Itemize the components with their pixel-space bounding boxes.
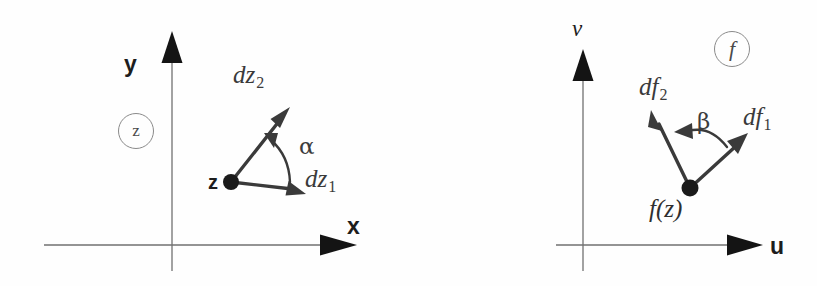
z-plane-vectors <box>223 107 306 196</box>
df2-vector-arrowhead <box>648 110 662 131</box>
df1-label: df1 <box>743 104 771 133</box>
f-plane-tag-label: f <box>729 36 735 62</box>
dz1-label-base: dz <box>305 165 327 192</box>
df1-vector-shaft <box>690 146 736 188</box>
beta-angle-arrowhead <box>674 123 693 139</box>
conformal-mapping-figure: y x z z dz2 dz1 α v u f f(z) df2 df1 β <box>0 0 817 286</box>
dz1-vector-shaft <box>231 182 292 189</box>
f-plane-tag: f <box>714 31 750 67</box>
u-axis-arrowhead <box>727 235 763 256</box>
df1-label-subscript: 1 <box>762 116 771 133</box>
df2-label: df2 <box>639 74 667 103</box>
dz1-label: dz1 <box>305 166 336 195</box>
y-axis-label: y <box>124 53 137 76</box>
v-axis-label: v <box>572 17 582 40</box>
dz2-label: dz2 <box>233 62 264 91</box>
beta-angle-label: β <box>697 110 710 133</box>
z-plane-tag-label: z <box>132 121 140 141</box>
df2-label-base: df <box>639 73 658 100</box>
fz-origin-dot <box>682 180 699 197</box>
dz2-label-subscript: 2 <box>255 74 264 91</box>
z-origin-dot <box>223 174 239 190</box>
df1-label-base: df <box>743 103 762 130</box>
v-axis-arrowhead <box>573 49 594 81</box>
dz2-label-base: dz <box>233 61 255 88</box>
u-axis-label: u <box>770 235 784 258</box>
dz2-vector-shaft <box>231 120 280 182</box>
z-point-label: z <box>208 172 218 192</box>
dz2-vector-arrowhead <box>271 107 291 128</box>
dz1-label-subscript: 1 <box>327 178 336 195</box>
df2-label-subscript: 2 <box>658 86 667 103</box>
x-axis-label: x <box>347 215 360 238</box>
fz-point-label: f(z) <box>649 196 682 221</box>
alpha-angle-label: α <box>299 135 315 158</box>
dz1-vector-arrowhead <box>286 181 307 196</box>
y-axis-arrowhead <box>162 31 183 63</box>
z-plane-tag: z <box>118 113 154 149</box>
